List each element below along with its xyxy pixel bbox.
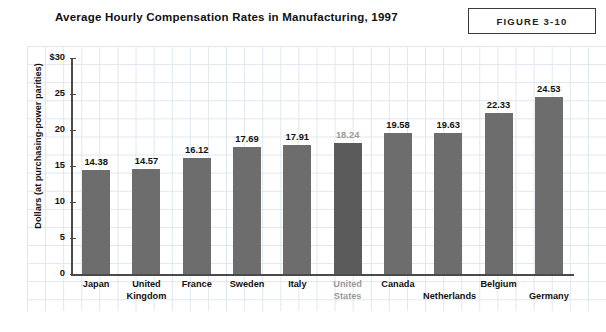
- category-label-line: United: [121, 279, 171, 291]
- figure-root: Average Hourly Compensation Rates in Man…: [0, 0, 606, 332]
- y-axis-title: Dollars (at purchasing-power parities): [33, 46, 43, 246]
- category-label-line: United: [323, 279, 373, 291]
- bar[interactable]: [334, 143, 362, 274]
- bar-value-label: 14.38: [84, 156, 107, 167]
- y-tick-label: 20: [29, 124, 65, 134]
- x-axis-category-label: Italy: [272, 279, 322, 291]
- x-axis-categories: JapanUnitedKingdomFranceSwedenItalyUnite…: [71, 279, 574, 319]
- y-tick-mark: [70, 274, 76, 275]
- bar-slot: 19.63: [423, 58, 473, 274]
- y-tick-label: 25: [29, 88, 65, 98]
- bar-value-label: 22.33: [487, 99, 510, 110]
- x-axis-category-label: Canada: [373, 279, 423, 291]
- axes: 0510152025$30 14.3814.5716.1217.6917.911…: [71, 58, 574, 276]
- y-tick-label: 0: [29, 268, 65, 278]
- x-axis-category-label: Germany: [524, 291, 574, 303]
- x-axis-category-label: UnitedStates: [323, 279, 373, 302]
- bar[interactable]: [132, 169, 160, 274]
- bar[interactable]: [485, 113, 513, 274]
- bar-slot: 17.69: [222, 58, 272, 274]
- bar-slot: 17.91: [272, 58, 322, 274]
- category-label-line: Sweden: [222, 279, 272, 291]
- category-label-line: Belgium: [473, 279, 523, 291]
- category-label-line: Kingdom: [121, 291, 171, 303]
- x-axis-category-label: Belgium: [473, 279, 523, 291]
- bar[interactable]: [384, 133, 412, 274]
- x-axis-category-label: UnitedKingdom: [121, 279, 171, 302]
- bar-value-label: 24.53: [537, 83, 560, 94]
- y-tick-label: 10: [29, 196, 65, 206]
- bar[interactable]: [535, 97, 563, 274]
- x-axis-line: [71, 274, 574, 276]
- bar-slot: 18.24: [323, 58, 373, 274]
- category-label-line: France: [172, 279, 222, 291]
- bar-value-label: 19.63: [437, 119, 460, 130]
- bar[interactable]: [183, 158, 211, 274]
- bar-slot: 22.33: [473, 58, 523, 274]
- bar-series: 14.3814.5716.1217.6917.9118.2419.5819.63…: [71, 58, 574, 274]
- bar-value-label: 14.57: [135, 155, 158, 166]
- y-tick-label: $30: [29, 52, 65, 62]
- category-label-line: States: [323, 291, 373, 303]
- x-axis-category-label: Sweden: [222, 279, 272, 291]
- bar-value-label: 19.58: [386, 119, 409, 130]
- bar-slot: 19.58: [373, 58, 423, 274]
- category-label-line: Canada: [373, 279, 423, 291]
- x-axis-category-label: Netherlands: [423, 291, 473, 303]
- bar[interactable]: [283, 145, 311, 274]
- bar-value-label: 18.24: [336, 129, 359, 140]
- chart-plot-area: Dollars (at purchasing-power parities) 0…: [0, 46, 606, 332]
- x-axis-category-label: France: [172, 279, 222, 291]
- bar-slot: 14.38: [71, 58, 121, 274]
- x-axis-category-label: Japan: [71, 279, 121, 291]
- category-label-line: Italy: [272, 279, 322, 291]
- bar-value-label: 17.91: [286, 131, 309, 142]
- bar-value-label: 16.12: [185, 144, 208, 155]
- y-tick-label: 15: [29, 160, 65, 170]
- category-label-line: Japan: [71, 279, 121, 291]
- y-tick-label: 5: [29, 232, 65, 242]
- bar[interactable]: [82, 170, 110, 274]
- category-label-line: Netherlands: [423, 291, 473, 303]
- figure-header: Average Hourly Compensation Rates in Man…: [0, 0, 606, 42]
- category-label-line: Germany: [524, 291, 574, 303]
- bar-slot: 14.57: [121, 58, 171, 274]
- bar[interactable]: [233, 147, 261, 274]
- bar-slot: 24.53: [524, 58, 574, 274]
- figure-number-box: FIGURE 3-10: [468, 8, 596, 34]
- bar[interactable]: [434, 133, 462, 274]
- figure-number-label: FIGURE 3-10: [496, 16, 567, 27]
- bar-value-label: 17.69: [235, 133, 258, 144]
- bar-slot: 16.12: [172, 58, 222, 274]
- page-title: Average Hourly Compensation Rates in Man…: [55, 11, 455, 23]
